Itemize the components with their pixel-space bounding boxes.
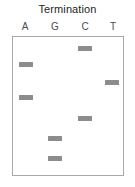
gel-band — [78, 46, 92, 51]
gel-band — [105, 80, 119, 85]
gel-band — [78, 116, 92, 121]
sequencing-gel-figure: Termination AGCT — [0, 0, 135, 187]
gel-bands-layer — [13, 37, 123, 175]
gel-band — [19, 62, 33, 67]
gel-plate — [12, 36, 124, 176]
gel-band — [19, 95, 33, 100]
figure-title: Termination — [0, 3, 135, 16]
lane-label-row: AGCT — [12, 20, 124, 34]
gel-band — [48, 136, 62, 141]
lane-label-g: G — [47, 20, 63, 33]
lane-label-t: T — [105, 20, 121, 33]
lane-label-a: A — [17, 20, 33, 33]
lane-label-c: C — [77, 20, 93, 33]
gel-band — [48, 156, 62, 161]
